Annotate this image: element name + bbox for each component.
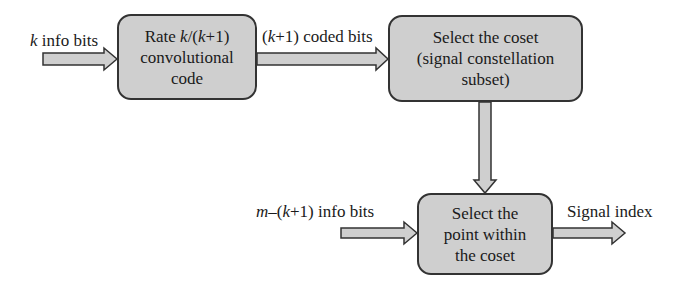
arrow-k-info-bits bbox=[43, 48, 117, 70]
label-text: –( bbox=[268, 202, 282, 221]
label-text: Rate bbox=[145, 27, 180, 46]
block-line: Rate k/(k+1) bbox=[145, 26, 230, 47]
block-line: (signal constellation bbox=[417, 48, 554, 69]
var-k: k bbox=[282, 202, 290, 221]
arrow-m-info-bits bbox=[341, 222, 417, 244]
block-line: subset) bbox=[461, 69, 509, 90]
label-text: +1) bbox=[206, 27, 230, 46]
arrow-coset-to-point bbox=[474, 102, 496, 193]
label-text: info bits bbox=[38, 31, 98, 50]
var-k: k bbox=[198, 27, 206, 46]
arrow-signal-index bbox=[553, 222, 625, 244]
arrow-coded-bits bbox=[257, 48, 388, 70]
label-k-info-bits: k info bits bbox=[30, 31, 98, 51]
block-select-point: Select the point within the coset bbox=[417, 193, 553, 275]
label-text: +1) coded bits bbox=[275, 27, 372, 46]
label-signal-index: Signal index bbox=[567, 202, 652, 222]
block-line: Select the coset bbox=[433, 27, 539, 48]
block-line: point within bbox=[444, 224, 527, 245]
var-k: k bbox=[30, 31, 38, 50]
block-line: the coset bbox=[455, 245, 515, 266]
block-line: code bbox=[171, 68, 203, 89]
block-convolutional-code: Rate k/(k+1) convolutional code bbox=[117, 14, 257, 100]
block-select-coset: Select the coset (signal constellation s… bbox=[388, 15, 583, 102]
var-m: m bbox=[256, 202, 268, 221]
label-coded-bits: (k+1) coded bits bbox=[262, 27, 373, 47]
label-text: Signal index bbox=[567, 202, 652, 221]
label-m-info-bits: m–(k+1) info bits bbox=[256, 202, 374, 222]
block-line: convolutional bbox=[140, 47, 233, 68]
label-text: +1) info bits bbox=[290, 202, 374, 221]
var-k: k bbox=[180, 27, 188, 46]
block-line: Select the bbox=[452, 203, 519, 224]
label-text: /( bbox=[188, 27, 198, 46]
